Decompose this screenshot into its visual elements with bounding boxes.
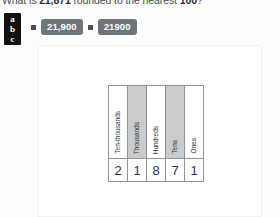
content-panel: Ten-thousands Thousands Hundreds Tens On…	[37, 45, 262, 217]
header-cell-hundreds: Hundreds	[147, 86, 166, 159]
header-label: Ten-thousands	[109, 108, 127, 154]
question-prefix: What is	[2, 0, 39, 6]
abc-selector[interactable]: a b c	[4, 13, 21, 45]
header-cell-ten-thousands: Ten-thousands	[109, 86, 128, 159]
abc-letter-c[interactable]: c	[11, 34, 15, 44]
header-label: Tens	[166, 137, 184, 154]
answer-option-2[interactable]: 21900	[98, 19, 137, 35]
answer-options-row: 21,900 21900	[31, 19, 137, 35]
digit-cell-hundreds: 8	[147, 159, 166, 182]
digit-cell-tens: 7	[166, 159, 185, 182]
abc-letter-a[interactable]: a	[10, 14, 15, 24]
header-cell-tens: Tens	[166, 86, 185, 159]
digit-cell-ones: 1	[185, 159, 204, 182]
bullet-marker-icon	[88, 25, 93, 30]
header-label: Ones	[185, 135, 203, 154]
question-text: What is 21,871 rounded to the nearest 10…	[2, 0, 278, 6]
digit-cell-thousands: 1	[128, 159, 147, 182]
table-digit-row: 2 1 8 7 1	[109, 159, 204, 182]
abc-letter-b[interactable]: b	[10, 24, 15, 34]
bullet-marker-icon	[31, 25, 36, 30]
header-label: Thousands	[128, 119, 146, 154]
question-target: 100	[180, 0, 197, 6]
question-suffix: ?	[197, 0, 203, 6]
header-cell-thousands: Thousands	[128, 86, 147, 159]
place-value-table: Ten-thousands Thousands Hundreds Tens On…	[108, 85, 204, 182]
table-header-row: Ten-thousands Thousands Hundreds Tens On…	[109, 86, 204, 159]
question-number: 21,871	[39, 0, 71, 6]
header-cell-ones: Ones	[185, 86, 204, 159]
question-middle: rounded to the nearest	[71, 0, 180, 6]
digit-cell-ten-thousands: 2	[109, 159, 128, 182]
header-label: Hundreds	[147, 123, 165, 154]
answer-option-1[interactable]: 21,900	[41, 19, 83, 35]
